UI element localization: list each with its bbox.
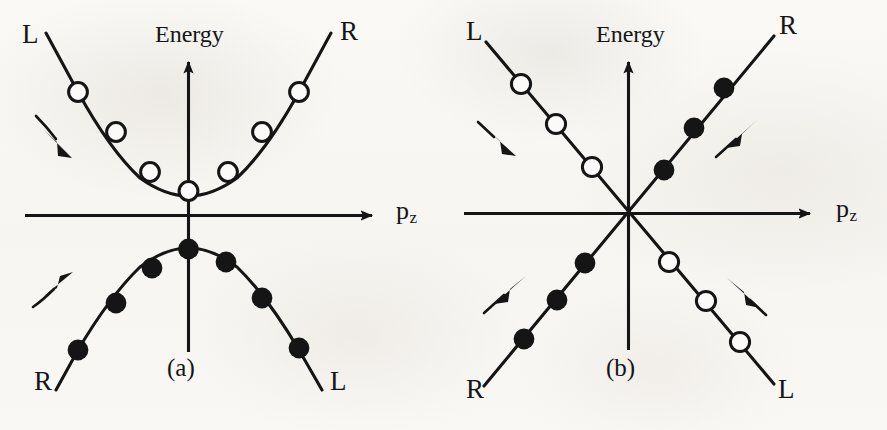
open-circle-marker bbox=[511, 74, 530, 93]
filled-circle-marker bbox=[178, 239, 199, 260]
open-circle-marker bbox=[219, 163, 238, 182]
open-circle-marker bbox=[107, 123, 126, 142]
open-circle-marker bbox=[546, 114, 565, 133]
panel-b-graphic bbox=[444, 0, 887, 430]
panel-b-upper-left-arrow bbox=[478, 122, 516, 156]
filled-circle-marker bbox=[714, 78, 735, 99]
filled-circle-marker bbox=[289, 338, 310, 359]
filled-circle-marker bbox=[575, 253, 596, 274]
panel-b-upper-right-arrow bbox=[716, 120, 757, 157]
open-circle-marker bbox=[69, 83, 88, 102]
filled-circle-marker bbox=[547, 290, 568, 311]
open-circle-marker bbox=[290, 83, 309, 102]
panel-b-label-bottom-right: L bbox=[778, 376, 795, 403]
open-circle-marker bbox=[696, 291, 715, 310]
panel-a-label-top-right: R bbox=[340, 18, 358, 45]
panel-b-lower-left-arrow bbox=[484, 276, 526, 313]
filled-circle-marker bbox=[252, 288, 273, 309]
filled-circle-marker bbox=[142, 258, 163, 279]
open-circle-marker bbox=[141, 163, 160, 182]
open-circle-marker bbox=[730, 332, 749, 351]
open-circle-marker bbox=[582, 157, 601, 176]
open-circle-marker bbox=[659, 252, 678, 271]
filled-circle-marker bbox=[106, 293, 127, 314]
panel-b-caption: (b) bbox=[606, 355, 635, 380]
filled-circle-marker bbox=[684, 118, 705, 139]
open-circle-marker bbox=[253, 123, 272, 142]
panel-a-caption: (a) bbox=[167, 355, 195, 380]
filled-circle-marker bbox=[68, 340, 89, 361]
panel-a-lower-left-arrow bbox=[33, 272, 73, 307]
figure-root: L R R L Energy pz (a) bbox=[0, 0, 887, 430]
panel-a-label-bottom-right: L bbox=[330, 368, 347, 395]
panel-b-x-axis-label-base: p bbox=[836, 194, 849, 223]
panel-a-label-top-left: L bbox=[22, 21, 39, 48]
panel-b-label-top-right: R bbox=[779, 12, 797, 39]
panel-a-label-bottom-left: R bbox=[34, 368, 52, 395]
panel-a-graphic bbox=[0, 0, 444, 430]
panel-b-label-top-left: L bbox=[466, 18, 483, 45]
panel-a-upper-left-arrow bbox=[36, 116, 72, 158]
panel-a-x-axis-label: pz bbox=[396, 198, 417, 226]
panel-b-lower-right-arrow bbox=[727, 278, 766, 315]
filled-circle-marker bbox=[514, 329, 535, 350]
panel-a-x-axis-label-sub: z bbox=[410, 208, 418, 227]
panel-b-x-axis-label: pz bbox=[836, 196, 857, 224]
open-circle-marker bbox=[179, 182, 198, 201]
panel-a-flow-arrows bbox=[33, 116, 73, 307]
panel-b-x-axis-label-sub: z bbox=[850, 206, 858, 225]
panel-b-y-axis-label: Energy bbox=[596, 22, 665, 46]
filled-circle-marker bbox=[654, 160, 675, 181]
panel-a-axes bbox=[25, 62, 372, 352]
filled-circle-marker bbox=[216, 252, 237, 273]
panel-b-label-bottom-left: R bbox=[466, 376, 484, 403]
panel-a-x-axis-label-base: p bbox=[396, 196, 409, 225]
panel-a-y-axis-label: Energy bbox=[155, 22, 224, 46]
